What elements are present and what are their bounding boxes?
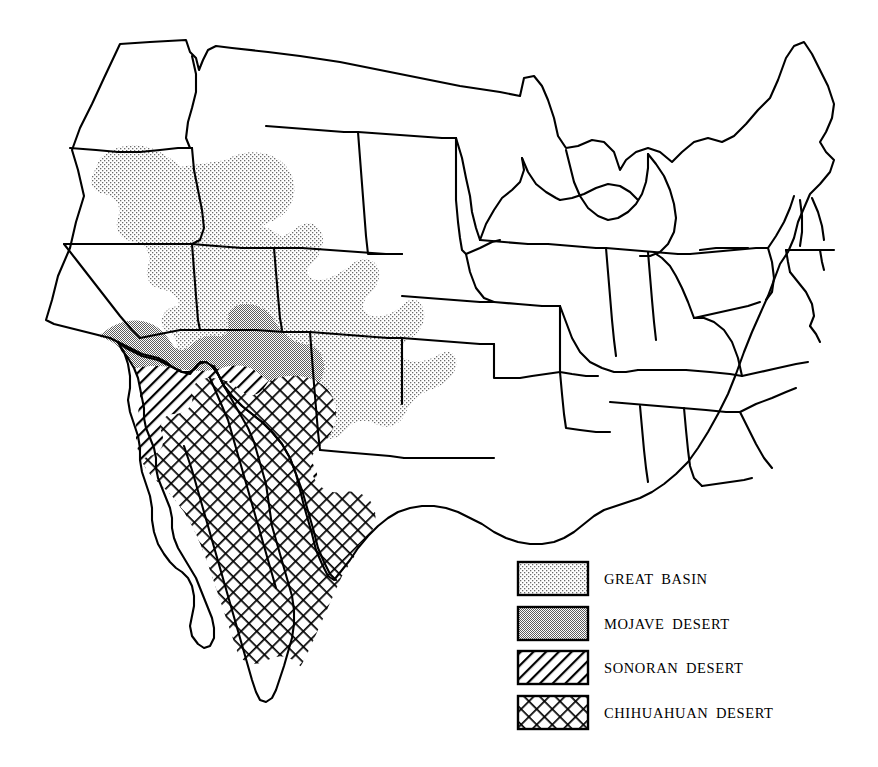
legend-swatch-mojave-desert (518, 607, 588, 640)
legend-swatch-chihuahuan-desert (518, 696, 588, 729)
legend-label-great-basin: GREAT BASIN (604, 571, 708, 587)
desert-map-figure: GREAT BASIN MOJAVE DESERT SONORAN DESERT… (0, 0, 878, 767)
legend-swatch-sonoran-desert (518, 651, 588, 684)
legend-label-chihuahuan-desert: CHIHUAHUAN DESERT (604, 705, 774, 721)
legend-label-mojave-desert: MOJAVE DESERT (604, 616, 730, 632)
legend-label-sonoran-desert: SONORAN DESERT (604, 660, 744, 676)
legend-swatch-great-basin (518, 562, 588, 595)
map-canvas: GREAT BASIN MOJAVE DESERT SONORAN DESERT… (0, 0, 878, 767)
